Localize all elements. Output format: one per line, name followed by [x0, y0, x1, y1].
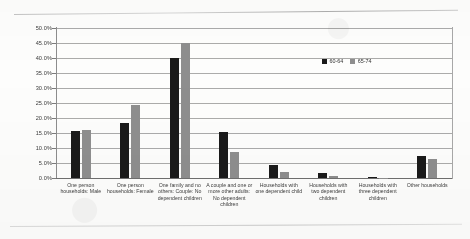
y-axis-tick-label: 20.0% [6, 115, 52, 121]
legend-swatch-icon [322, 59, 327, 64]
bar [71, 131, 80, 178]
y-axis-tick-label: 35.0% [6, 70, 52, 76]
y-axis-tick-label: 50.0% [6, 25, 52, 31]
x-axis-category-label: Other households [403, 182, 453, 208]
bar-group [155, 28, 205, 178]
y-axis-tick-mark [52, 103, 56, 104]
legend-swatch-icon [350, 59, 355, 64]
y-axis-tick-label: 25.0% [6, 100, 52, 106]
bar [82, 130, 91, 178]
y-axis-tick-mark [52, 178, 56, 179]
bar-group [304, 28, 354, 178]
y-axis-tick-label: 40.0% [6, 55, 52, 61]
bar-group [353, 28, 403, 178]
x-axis-category-label: One family and no others: Couple: No dep… [155, 182, 205, 208]
bar [329, 176, 338, 178]
plot-right-border [452, 27, 453, 179]
y-axis-tick-label: 45.0% [6, 40, 52, 46]
bar-group [403, 28, 453, 178]
y-axis-tick-label: 10.0% [6, 145, 52, 151]
x-axis-category-label: A couple and one or more other adults: N… [205, 182, 255, 208]
bar-group [106, 28, 156, 178]
y-axis-tick-label: 5.0% [6, 160, 52, 166]
bar [269, 165, 278, 178]
bar-group [205, 28, 255, 178]
y-axis-tick-mark [52, 28, 56, 29]
bar [181, 43, 190, 178]
y-axis-tick-labels: 50.0%45.0%40.0%35.0%30.0%25.0%20.0%15.0%… [4, 28, 52, 178]
bar-group [254, 28, 304, 178]
x-axis-category-label: Households with three dependent children [353, 182, 403, 208]
bar-group [56, 28, 106, 178]
x-axis-line [56, 178, 452, 179]
y-axis-tick-label: 0.0% [6, 175, 52, 181]
y-axis-tick-mark [52, 133, 56, 134]
legend-label: 65-74 [358, 58, 372, 64]
y-axis-tick-mark [52, 73, 56, 74]
bar [219, 132, 228, 178]
bar [368, 177, 377, 178]
bar [428, 159, 437, 178]
x-axis-category-label: Households with two dependent children [304, 182, 354, 208]
y-axis-tick-label: 30.0% [6, 85, 52, 91]
bar [318, 173, 327, 178]
x-axis-category-label: One person households: Male [56, 182, 106, 208]
x-axis-category-label: Households with one dependent child [254, 182, 304, 208]
legend-label: 60-64 [330, 58, 344, 64]
x-axis-category-labels: One person households: MaleOne person ho… [56, 182, 452, 208]
bar [120, 123, 129, 178]
bar-groups [56, 28, 452, 178]
y-axis-tick-mark [52, 163, 56, 164]
chart-legend: 60-64 65-74 [322, 58, 372, 64]
bar [170, 58, 179, 178]
y-axis-tick-label: 15.0% [6, 130, 52, 136]
grouped-bar-chart: 50.0%45.0%40.0%35.0%30.0%25.0%20.0%15.0%… [0, 0, 470, 239]
y-axis-tick-mark [52, 148, 56, 149]
bar [230, 152, 239, 178]
bar [417, 156, 426, 178]
legend-item-series-1: 65-74 [350, 58, 371, 64]
y-axis-tick-mark [52, 58, 56, 59]
y-axis-tick-mark [52, 88, 56, 89]
bar [131, 105, 140, 178]
y-axis-tick-mark [52, 118, 56, 119]
y-axis-tick-mark [52, 43, 56, 44]
x-axis-category-label: One person households: Female [106, 182, 156, 208]
legend-item-series-0: 60-64 [322, 58, 343, 64]
bar [280, 172, 289, 178]
